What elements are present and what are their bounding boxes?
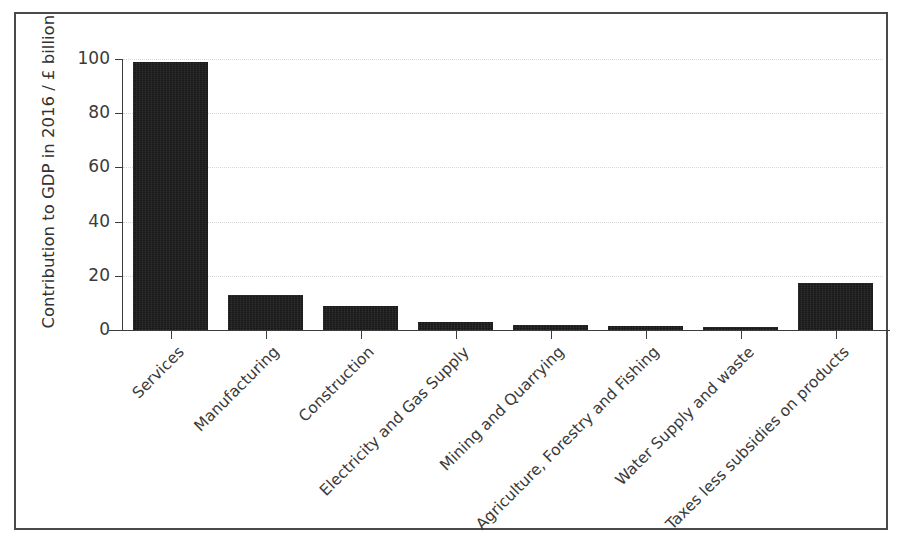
x-axis-tick-label-text: Manufacturing <box>187 343 282 438</box>
x-axis-tick <box>741 331 742 339</box>
y-axis-tick-labels: 020406080100 <box>60 14 110 414</box>
y-axis-tick-label: 0 <box>66 321 110 338</box>
y-axis-tick-label: 60 <box>66 158 110 175</box>
figure-frame: Contribution to GDP in 2016 / £ billion … <box>14 12 888 530</box>
y-axis-tick <box>115 276 123 277</box>
x-axis-tick <box>646 331 647 339</box>
y-axis-tick <box>115 167 123 168</box>
gridline <box>123 167 883 169</box>
x-axis-line <box>109 330 890 331</box>
x-axis-tick-label-text: Services <box>125 343 187 405</box>
bar[interactable] <box>798 283 872 330</box>
x-axis-tick <box>361 331 362 339</box>
x-axis-tick <box>456 331 457 339</box>
bar[interactable] <box>133 62 207 330</box>
bar[interactable] <box>228 295 302 330</box>
x-axis-tick <box>171 331 172 339</box>
gridline <box>123 222 883 224</box>
x-axis-tick <box>266 331 267 339</box>
plot-area <box>123 59 883 330</box>
x-axis-tick-label: Electricity and Gas Supply <box>313 343 472 502</box>
x-axis-tick-label-text: Construction <box>292 343 377 428</box>
gridline <box>123 276 883 278</box>
gridline <box>123 113 883 115</box>
y-axis-tick-label: 80 <box>66 104 110 121</box>
x-axis-tick-label-text: Agriculture, Forestry and Fishing <box>469 343 662 536</box>
x-axis-tick-label: Manufacturing <box>187 343 282 438</box>
y-axis-tick <box>115 330 123 331</box>
gridline <box>123 59 883 61</box>
y-axis-tick <box>115 59 123 60</box>
bar[interactable] <box>513 325 587 330</box>
x-axis-tick-label: Services <box>125 343 187 405</box>
y-axis-tick-label: 40 <box>66 213 110 230</box>
x-axis-tick-label: Taxes less subsidies on products <box>659 343 852 536</box>
y-axis-tick-label: 100 <box>66 50 110 67</box>
x-axis-tick-label-text: Taxes less subsidies on products <box>659 343 852 536</box>
bar[interactable] <box>703 327 777 330</box>
x-axis-tick <box>551 331 552 339</box>
y-axis-tick-label: 20 <box>66 267 110 284</box>
x-axis-tick <box>836 331 837 339</box>
x-axis-tick-label: Agriculture, Forestry and Fishing <box>469 343 662 536</box>
y-axis-tick <box>115 222 123 223</box>
x-axis-tick-label-text: Electricity and Gas Supply <box>313 343 472 502</box>
y-axis-tick <box>115 113 123 114</box>
x-axis-tick-label: Construction <box>292 343 377 428</box>
bar[interactable] <box>323 306 397 330</box>
bar[interactable] <box>418 322 492 330</box>
bar[interactable] <box>608 326 682 330</box>
y-axis-title: Contribution to GDP in 2016 / £ billion <box>39 39 58 329</box>
